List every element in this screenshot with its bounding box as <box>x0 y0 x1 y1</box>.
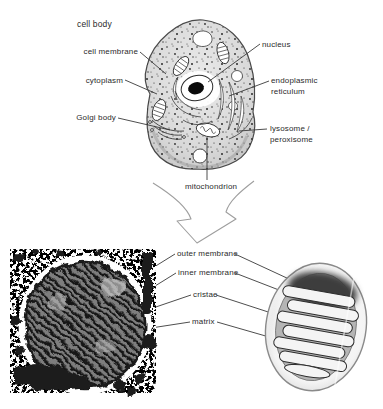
mitochondrion-illustration <box>256 255 377 398</box>
label-cell-membrane: cell membrane <box>58 47 138 56</box>
cell-body-title: cell body <box>77 20 112 29</box>
cell-illustration <box>145 20 254 169</box>
diagram-artwork <box>0 0 383 409</box>
leader-outer-membrane-right <box>235 254 289 279</box>
cell-diagram-figure: cell body cell membrane cytoplasm Golgi … <box>0 0 383 409</box>
em-micrograph <box>10 249 157 400</box>
vesicle <box>232 71 243 82</box>
label-er-line2: reticulum <box>271 87 318 98</box>
vesicle <box>193 31 212 47</box>
label-outer-membrane: outer membrane <box>177 249 238 258</box>
label-matrix: matrix <box>192 317 215 326</box>
label-cristae: cristae <box>193 290 218 299</box>
label-mitochondrion: mitochondrion <box>176 182 246 191</box>
label-er-line1: endoplasmic <box>271 76 318 87</box>
label-nucleus: nucleus <box>262 40 291 49</box>
lysosome-shape <box>193 149 207 163</box>
label-inner-membrane: inner membrane <box>178 268 238 277</box>
label-golgi-body: Golgi body <box>36 113 116 122</box>
label-lysosome-line2: peroxisome <box>270 135 313 146</box>
label-endoplasmic-reticulum: endoplasmic reticulum <box>271 76 318 97</box>
label-cytoplasm: cytoplasm <box>43 76 123 85</box>
label-lysosome-line1: lysosome / <box>270 124 313 135</box>
label-lysosome-peroxisome: lysosome / peroxisome <box>270 124 313 145</box>
